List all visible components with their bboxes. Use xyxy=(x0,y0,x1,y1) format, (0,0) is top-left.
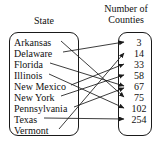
mapping-diagram-figure: State Number of Counties Arkansas Delawa… xyxy=(0,0,156,148)
counties-item-58: 58 xyxy=(119,71,153,81)
state-item-texas: Texas xyxy=(14,115,37,125)
right-set-oval: 3 14 33 58 67 75 102 254 xyxy=(118,32,152,136)
counties-item-254: 254 xyxy=(119,115,153,125)
left-set-oval: Arkansas Delaware Florida Illinois New M… xyxy=(9,32,79,136)
left-set-title: State xyxy=(10,15,78,26)
counties-item-75: 75 xyxy=(119,93,153,103)
counties-item-67: 67 xyxy=(119,82,153,92)
right-set-title: Number of Counties xyxy=(98,3,154,25)
counties-item-3: 3 xyxy=(119,38,153,48)
state-item-new-mexico: New Mexico xyxy=(14,82,66,92)
state-item-arkansas: Arkansas xyxy=(14,38,51,48)
counties-item-14: 14 xyxy=(119,49,153,59)
state-item-illinois: Illinois xyxy=(14,71,42,81)
state-item-vermont: Vermont xyxy=(14,126,48,136)
arrow-pennsylvania-to-67 xyxy=(74,88,124,107)
counties-item-102: 102 xyxy=(119,104,153,114)
state-item-new-york: New York xyxy=(14,93,55,103)
right-set-title-line-2: Counties xyxy=(98,14,154,25)
state-item-florida: Florida xyxy=(14,60,43,70)
state-item-pennsylvania: Pennsylvania xyxy=(14,104,67,114)
right-set-title-line-1: Number of xyxy=(98,3,154,14)
left-set-item-list: Arkansas Delaware Florida Illinois New M… xyxy=(10,33,78,135)
state-item-delaware: Delaware xyxy=(14,49,52,59)
right-set-item-list: 3 14 33 58 67 75 102 254 xyxy=(119,33,151,135)
counties-item-33: 33 xyxy=(119,60,153,70)
